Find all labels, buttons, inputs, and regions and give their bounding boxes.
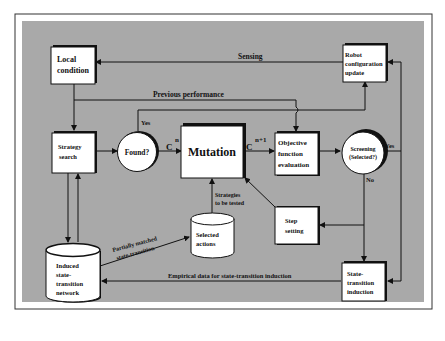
label: Strategy xyxy=(58,143,82,150)
label: state- xyxy=(56,271,71,278)
label: Mutation xyxy=(188,145,236,159)
label: Screening xyxy=(350,146,375,152)
label: induction xyxy=(347,288,374,295)
edge-label-yes-screening: Yes xyxy=(385,142,395,149)
edge-label-c-n-plus-1-superscript: n+1 xyxy=(255,136,267,144)
node-found-decision: Found? xyxy=(118,131,160,172)
label: update xyxy=(345,69,364,76)
label: Robot xyxy=(345,51,363,58)
node-mutation: Mutation xyxy=(181,123,246,178)
label: evaluation xyxy=(278,161,309,169)
label: Selected xyxy=(196,231,219,238)
label: State- xyxy=(347,270,363,277)
node-objective-function-evaluation: Objective function evaluation xyxy=(275,131,320,176)
edge-label-c-n-plus-1: C xyxy=(246,142,253,152)
flow-diagram: Local condition Robot configuration upda… xyxy=(0,0,445,341)
label: Local xyxy=(57,55,77,64)
node-local-condition: Local condition xyxy=(51,45,97,84)
label: setting xyxy=(285,227,304,234)
label: (Selected?) xyxy=(349,154,377,161)
edge-label-yes-found: Yes xyxy=(141,119,151,126)
node-induced-state-transition-network: Induced state- transition network xyxy=(46,244,101,303)
label: Step xyxy=(285,217,298,224)
node-state-transition-induction: State- transition induction xyxy=(342,261,387,301)
edge-label-sensing: Sensing xyxy=(238,52,263,61)
edge-label-previous-performance: Previous performance xyxy=(153,90,225,99)
label: configuration xyxy=(345,60,383,67)
edge-label-c-n: C xyxy=(166,142,173,152)
label: Found? xyxy=(125,148,150,157)
node-strategy-search: Strategy search xyxy=(52,131,97,173)
edge-label-to-be-tested: to be tested xyxy=(215,200,245,206)
node-step-setting: Step setting xyxy=(275,206,320,245)
edge-label-empirical-data: Empirical data for state-transition indu… xyxy=(168,272,292,279)
edge-label-c-n-superscript: n xyxy=(175,136,179,144)
label: actions xyxy=(196,240,216,247)
edge-label-strategies: Strategies xyxy=(215,192,241,198)
label: Objective xyxy=(278,139,307,147)
label: network xyxy=(56,289,79,296)
node-robot-configuration-update: Robot configuration update xyxy=(343,43,388,82)
label: Induced xyxy=(56,262,79,269)
label: transition xyxy=(347,279,374,286)
label: condition xyxy=(57,66,90,75)
label: function xyxy=(278,150,303,158)
edge-label-no-screening: No xyxy=(366,176,374,183)
label: transition xyxy=(56,280,83,287)
node-selected-actions: Selected actions xyxy=(191,213,234,258)
label: search xyxy=(59,153,77,160)
